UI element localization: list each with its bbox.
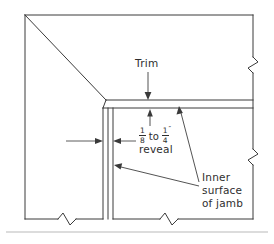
fraction-denominator: 4 bbox=[162, 135, 169, 144]
jamb-leader-arrowhead-lower bbox=[114, 163, 122, 169]
diagonal-soffit-line bbox=[25, 15, 106, 100]
trim-left-edge bbox=[103, 100, 106, 108]
label-reveal-word: reveal bbox=[139, 143, 173, 155]
break-symbol-right-upper bbox=[248, 57, 258, 73]
break-symbol-bottom-left bbox=[58, 213, 76, 225]
fraction-one-eighth: 1 8 bbox=[139, 127, 146, 144]
fraction-numerator: 1 bbox=[162, 127, 169, 135]
label-inner-surface-of-jamb: Inner surface of jamb bbox=[202, 171, 243, 210]
label-trim: Trim bbox=[135, 57, 159, 69]
jamb-label-line-3: of jamb bbox=[202, 197, 243, 210]
fraction-numerator: 1 bbox=[139, 127, 146, 135]
trim-leader-arrowhead bbox=[145, 92, 152, 100]
fraction-denominator: 8 bbox=[139, 135, 146, 144]
jamb-leader-line-lower bbox=[121, 167, 199, 186]
fraction-one-quarter: 1 4 ″ bbox=[162, 127, 171, 144]
reveal-dim-arrowhead-right bbox=[113, 138, 121, 144]
jamb-label-line-2: surface bbox=[202, 184, 243, 197]
inch-mark-symbol: ″ bbox=[169, 126, 172, 133]
architectural-detail-drawing: Trim 1 8 to 1 4 ″ reveal Inner surface o… bbox=[0, 0, 274, 244]
reveal-dimension-row: 1 8 to 1 4 ″ bbox=[139, 128, 173, 143]
label-reveal-dimension: 1 8 to 1 4 ″ reveal bbox=[139, 128, 173, 155]
reveal-connector-word: to bbox=[149, 131, 159, 143]
reveal-dim-arrowhead-left bbox=[95, 138, 103, 144]
jamb-leader-line-upper bbox=[181, 113, 199, 182]
break-symbol-bottom-right bbox=[160, 213, 178, 225]
reveal-leader-arrowhead bbox=[147, 109, 153, 117]
jamb-label-line-1: Inner bbox=[202, 171, 243, 184]
jamb-leader-arrowhead-upper bbox=[177, 106, 183, 115]
break-symbol-right-lower bbox=[248, 149, 258, 165]
